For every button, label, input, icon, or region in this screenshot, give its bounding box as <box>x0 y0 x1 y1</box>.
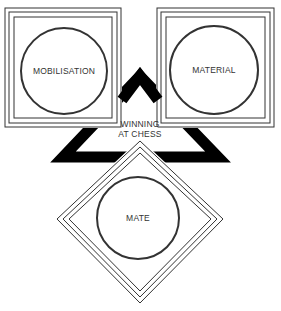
center-label-line1: WINNING <box>120 119 159 129</box>
material-label: MATERIAL <box>192 65 236 75</box>
triangle-overlap <box>122 76 158 100</box>
winning-at-chess-diagram: MOBILISATION MATERIAL MATE WINNING AT CH… <box>0 0 281 311</box>
mobilisation-label: MOBILISATION <box>33 66 95 76</box>
mate-label: MATE <box>126 213 150 223</box>
center-label-line2: AT CHESS <box>118 129 161 139</box>
